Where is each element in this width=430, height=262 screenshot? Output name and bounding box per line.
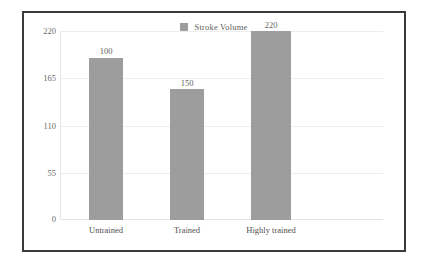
- bars-layer: 100 Untrained 150 Trained 220 Highly tra…: [61, 31, 383, 220]
- bar-category-trained: Trained: [154, 225, 220, 235]
- ytick-label-0: 0: [52, 214, 56, 224]
- bar-rect-trained[interactable]: [170, 89, 204, 220]
- bar-value-trained: 150: [170, 78, 204, 88]
- bar-group-highly-trained[interactable]: 220 Highly trained: [251, 31, 291, 220]
- ytick-label-110: 110: [44, 121, 56, 131]
- chart-figure-frame: Stroke Volume 220 165 110 55 0: [22, 11, 406, 252]
- ytick-label-55: 55: [48, 168, 57, 178]
- bar-category-highly-trained: Highly trained: [235, 225, 307, 235]
- bar-value-untrained: 100: [89, 46, 123, 56]
- legend-swatch-icon: [180, 23, 188, 31]
- bar-group-trained[interactable]: 150 Trained: [170, 31, 204, 220]
- ytick-label-165: 165: [43, 73, 56, 83]
- bar-category-untrained: Untrained: [73, 225, 139, 235]
- bar-group-untrained[interactable]: 100 Untrained: [89, 31, 123, 220]
- bar-rect-untrained[interactable]: [89, 58, 123, 220]
- bar-rect-highly-trained[interactable]: [251, 31, 291, 220]
- bar-chart: Stroke Volume 220 165 110 55 0: [24, 13, 404, 250]
- ytick-label-220: 220: [43, 26, 56, 36]
- plot-area: 220 165 110 55 0 100 Untrained: [60, 31, 383, 220]
- bar-value-highly-trained: 220: [251, 20, 291, 30]
